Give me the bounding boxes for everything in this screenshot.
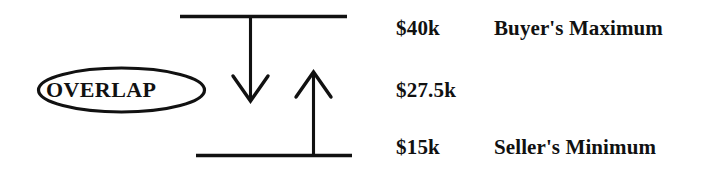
amount-seller-minimum: $15k (396, 137, 440, 158)
buyer-concession-arrow (233, 16, 268, 101)
amount-buyer-maximum: $40k (396, 18, 440, 39)
negotiation-overlap-diagram: OVERLAP $40k Buyer's Maximum $27.5k $15k… (0, 0, 711, 178)
seller-concession-arrow (296, 72, 331, 156)
description-seller-minimum: Seller's Minimum (494, 137, 656, 158)
amount-midpoint: $27.5k (396, 80, 456, 101)
overlap-label: OVERLAP (46, 79, 156, 101)
description-buyer-maximum: Buyer's Maximum (494, 18, 663, 39)
